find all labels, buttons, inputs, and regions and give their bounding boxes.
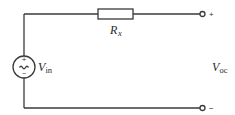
rx-label-sub: x: [117, 28, 122, 38]
rx-label-main: R: [109, 23, 118, 37]
terminal-plus-sign: +: [209, 10, 214, 19]
vin-label-sub: in: [46, 65, 53, 75]
voc-label-sub: oc: [220, 65, 228, 75]
circuit-diagram: + − V in R x V oc + −: [0, 0, 235, 115]
positive-terminal: [200, 12, 205, 17]
source-minus-sign: −: [22, 70, 26, 77]
resistor-rx: [98, 9, 133, 19]
terminal-minus-sign: −: [209, 104, 214, 113]
ac-tilde-icon: [20, 66, 29, 69]
source-plus-sign: +: [22, 56, 26, 63]
negative-terminal: [200, 106, 205, 111]
